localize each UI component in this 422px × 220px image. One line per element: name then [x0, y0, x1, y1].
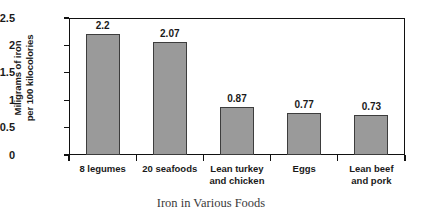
bar-chart: Miligrams of iron per 100 kilocolories 0…	[0, 0, 422, 220]
bar	[86, 34, 120, 155]
bar-slot: 0.73	[338, 18, 405, 155]
bar-slot: 2.2	[69, 18, 136, 155]
x-axis-category-label: 20 seafoods	[132, 163, 208, 175]
y-axis-tick-label: 0.5	[0, 122, 15, 133]
x-axis-category-labels: 8 legumes20 seafoodsLean turkeyand chick…	[69, 163, 405, 193]
x-axis-category-label: Lean turkeyand chicken	[199, 163, 275, 187]
x-axis-category-label-line: 20 seafoods	[132, 163, 208, 175]
x-axis-tick-mark	[270, 155, 271, 161]
bar-slot: 0.77	[271, 18, 338, 155]
x-axis-category-label: 8 legumes	[65, 163, 141, 175]
y-axis-tick-label: 2	[0, 40, 15, 51]
y-axis-tick-label: 2.5	[0, 13, 15, 24]
x-axis-category-label-line: and pork	[333, 175, 409, 187]
bar-slot: 2.07	[136, 18, 203, 155]
x-axis-category-label-line: 8 legumes	[65, 163, 141, 175]
bar	[354, 115, 388, 155]
bar	[287, 113, 321, 155]
x-axis-tick-mark	[136, 155, 137, 161]
bar-slot: 0.87	[203, 18, 270, 155]
bars-group: 2.22.070.870.770.73	[69, 18, 405, 155]
x-axis-category-label-line: Lean beef	[333, 163, 409, 175]
bar-value-label: 0.87	[227, 94, 246, 104]
bar-value-label: 2.07	[160, 29, 179, 39]
y-axis-tick-label: 1	[0, 95, 15, 106]
y-axis-title-line-2: per 100 kilocolories	[24, 35, 37, 122]
x-axis-tick-mark	[68, 155, 69, 161]
x-axis-category-label: Lean beefand pork	[333, 163, 409, 187]
x-axis-tick-mark	[337, 155, 338, 161]
y-axis-tick-label: 1.5	[0, 67, 15, 78]
x-axis-category-label-line: and chicken	[199, 175, 275, 187]
bar-value-label: 2.2	[96, 21, 110, 31]
bar	[153, 42, 187, 155]
x-axis-category-label-line: Lean turkey	[199, 163, 275, 175]
x-axis-category-label: Eggs	[266, 163, 342, 175]
bar	[220, 107, 254, 155]
bar-value-label: 0.77	[294, 100, 313, 110]
x-axis-tick-mark	[203, 155, 204, 161]
x-axis-category-label-line: Eggs	[266, 163, 342, 175]
x-axis-tick-mark	[404, 155, 405, 161]
y-axis-tick-label: 0	[0, 150, 15, 161]
x-axis-title: Iron in Various Foods	[0, 196, 422, 211]
bar-value-label: 0.73	[362, 102, 381, 112]
